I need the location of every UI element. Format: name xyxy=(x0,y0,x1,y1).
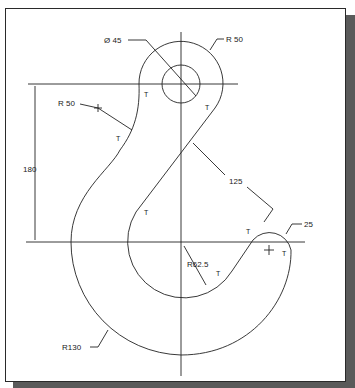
label-dia45: Ø 45 xyxy=(104,36,122,45)
label-r625: R62.5 xyxy=(187,260,209,269)
dim-r50-top-leader xyxy=(210,39,224,50)
label-180: 180 xyxy=(23,165,37,174)
label-r130: R130 xyxy=(62,343,82,352)
tangent-marker: T xyxy=(144,209,149,216)
tangent-marker: T xyxy=(282,250,287,257)
dim-125-line-b xyxy=(247,187,273,222)
tangent-marker: T xyxy=(216,270,221,277)
label-r50-left: R 50 xyxy=(58,99,75,108)
label-125: 125 xyxy=(229,177,243,186)
hook-drawing: Ø 45 R 50 R 50 180 125 25 R62.5 R130 T T… xyxy=(0,0,355,388)
tangent-marker: T xyxy=(116,135,121,142)
dim-r130-leader xyxy=(90,330,108,347)
label-25: 25 xyxy=(304,220,313,229)
dim-125-line-a xyxy=(193,143,225,175)
tangent-marker: T xyxy=(205,104,210,111)
tangent-marker: T xyxy=(144,91,149,98)
tangent-marker: T xyxy=(246,228,251,235)
label-r50-top: R 50 xyxy=(226,35,243,44)
dim-r50-left-leader xyxy=(80,104,132,130)
dim-25-leader xyxy=(286,224,302,234)
